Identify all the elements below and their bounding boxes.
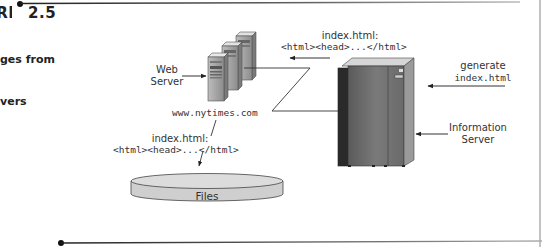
transfer-to-files-content: <html><head>...</html> — [113, 144, 239, 156]
information-server-label-line-1: Information — [446, 122, 510, 134]
information-server-label-line-2: Server — [446, 134, 510, 146]
figure-number: FIGURE2.5 — [0, 4, 56, 22]
figure-caption-line-1: ges from — [0, 53, 55, 67]
transfer-to-web-content: <html><head>...</html> — [281, 41, 407, 53]
figure-caption: ges from vers — [0, 25, 55, 123]
web-server-label-line-2: Server — [150, 76, 184, 88]
web-server-hostname: www.nytimes.com — [172, 107, 258, 119]
web-to-files-line-upper — [211, 120, 216, 136]
files-label: Files — [187, 190, 227, 202]
information-server-label: Information Server — [446, 122, 510, 146]
information-server-icon — [338, 58, 414, 167]
generate-label-line-2: index.html — [438, 72, 528, 84]
generate-label-line-1: generate — [438, 60, 528, 72]
network-connection-line — [244, 68, 342, 111]
web-server-label: Web Server — [150, 64, 184, 88]
generate-label: generate index.html — [438, 60, 528, 84]
web-server-icon — [208, 32, 256, 101]
bottom-rule — [58, 240, 542, 246]
figure-caption-line-2: vers — [0, 95, 55, 109]
web-server-label-line-1: Web — [150, 64, 184, 76]
